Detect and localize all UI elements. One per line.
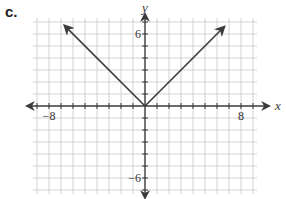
axes [27,14,269,198]
y-axis-label: y [140,0,148,15]
y-tick-label: −6 [128,171,141,185]
y-tick-label: 6 [135,27,141,41]
axis-labels: −886−6xy [43,0,281,185]
x-tick-label: 8 [238,109,244,123]
x-axis-label: x [274,98,281,113]
coordinate-plane: −886−6xy [0,0,286,199]
x-tick-label: −8 [43,109,56,123]
